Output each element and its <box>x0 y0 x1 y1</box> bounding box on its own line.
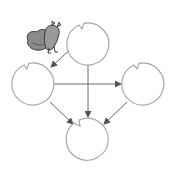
lily-pad-left[interactable] <box>12 63 54 105</box>
lily-pad-right[interactable] <box>122 63 164 105</box>
lily-pad-bottom[interactable] <box>66 118 108 160</box>
edge-left-to-bottom <box>50 102 73 124</box>
lily-pad-graph <box>0 0 171 172</box>
lily-pad-top[interactable] <box>67 23 109 65</box>
edge-right-to-bottom <box>104 102 127 124</box>
frog-icon <box>27 21 61 53</box>
